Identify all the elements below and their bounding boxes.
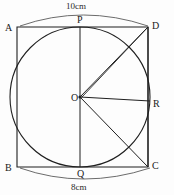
- top-dimension-label: 10cm: [66, 2, 86, 11]
- vertex-label-q: Q: [77, 169, 84, 179]
- vertex-label-p: P: [77, 15, 83, 25]
- vertex-label-b: B: [5, 163, 12, 173]
- geometry-canvas: [0, 0, 174, 195]
- segment-oc: [80, 97, 148, 167]
- geometry-figure: 10cm 8cm A B C D O P Q R: [0, 0, 174, 195]
- vertex-label-c: C: [152, 161, 159, 171]
- bottom-dimension-label: 8cm: [71, 183, 87, 192]
- segment-or: [80, 97, 150, 101]
- top-dimension-arc: [20, 15, 148, 26]
- bottom-dimension-arc: [20, 168, 150, 179]
- vertex-label-o: O: [71, 93, 78, 103]
- vertex-label-r: R: [153, 99, 160, 109]
- vertex-label-d: D: [152, 21, 159, 31]
- centre-dot: [78, 95, 81, 98]
- chord-d-to-o: [82, 27, 148, 97]
- vertex-label-a: A: [5, 23, 12, 33]
